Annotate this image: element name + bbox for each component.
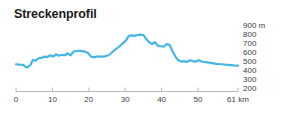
axis-group bbox=[16, 88, 238, 92]
y-axis-tick-label: 300 bbox=[243, 75, 256, 84]
elevation-profile-widget: Streckenprofil 900 m80070060050040030020… bbox=[0, 0, 286, 114]
y-axis-tick-label: 800 bbox=[243, 30, 256, 39]
y-axis-tick-label: 400 bbox=[243, 66, 256, 75]
x-axis-tick-label: 61 km bbox=[208, 95, 268, 104]
profile-line-group bbox=[16, 35, 238, 68]
x-axis-ticks bbox=[16, 88, 238, 92]
y-axis-tick-label: 600 bbox=[243, 48, 256, 57]
y-axis-tick-label: 900 m bbox=[243, 21, 265, 30]
y-axis-tick-label: 200 bbox=[243, 84, 256, 93]
y-axis-tick-label: 500 bbox=[243, 57, 256, 66]
elevation-profile-line bbox=[16, 35, 238, 68]
y-axis-tick-label: 700 bbox=[243, 39, 256, 48]
